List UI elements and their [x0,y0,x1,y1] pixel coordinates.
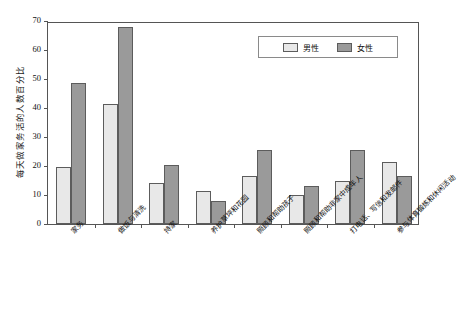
bar-male [196,191,211,224]
y-axis-tick-label: 20 [33,160,42,170]
legend-swatch-female [337,43,352,52]
bar-male [149,183,164,224]
chart-legend: 男性女性 [258,36,398,58]
y-axis-tick-label: 40 [33,102,42,112]
bar-group [149,23,179,224]
bar-female [71,83,86,224]
y-axis-tick-label: 70 [33,15,42,25]
legend-label: 女性 [357,42,373,53]
bar-female [118,27,133,224]
legend-label: 男性 [303,42,319,53]
bar-group [196,23,226,224]
bar-male [56,167,71,224]
y-axis-tick-label: 60 [33,44,42,54]
bar-male [103,104,118,224]
bar-group [56,23,86,224]
x-axis-labels: 家务做饭与清洗持家养护草坪和花园照顾和帮助孩子照顾和帮助非家中成年人打电话、写信… [47,228,419,320]
y-axis-tick-label: 50 [33,73,42,83]
bar-female [164,165,179,224]
bar-group [103,23,133,224]
legend-entry: 男性 [283,42,319,53]
y-axis-tick-label: 10 [33,189,42,199]
legend-entry: 女性 [337,42,373,53]
y-axis-tick-mark [44,224,48,225]
y-axis-tick-mark [44,21,48,22]
legend-swatch-male [283,43,298,52]
y-axis-title: 每天做家务活的人数百分比 [13,17,25,227]
y-axis-tick-label: 0 [37,218,41,228]
y-axis-tick-label: 30 [33,131,42,141]
